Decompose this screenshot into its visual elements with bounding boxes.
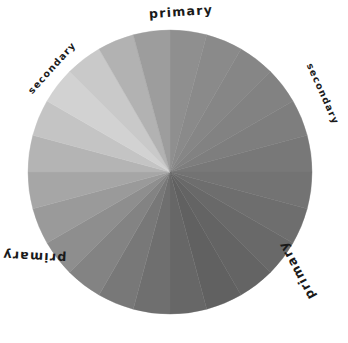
color-wheel-figure: primarysecondarysecondaryprimaryprimary [0,0,348,343]
wheel-label-primary-left: primary [2,248,67,264]
color-wheel-segments [28,30,312,314]
color-wheel-canvas [0,0,348,343]
